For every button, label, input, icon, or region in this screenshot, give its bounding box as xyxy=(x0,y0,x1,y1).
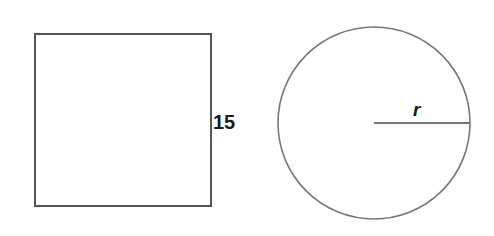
geometry-figure: 15 r xyxy=(0,0,494,236)
circle-radius-label: r xyxy=(413,100,420,119)
square-side-length-label: 15 xyxy=(213,112,235,132)
square-shape xyxy=(35,34,211,206)
